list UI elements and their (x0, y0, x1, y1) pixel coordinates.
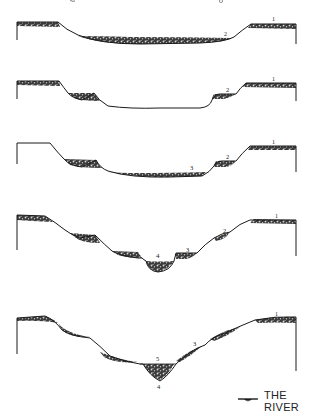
label-2: 2 (226, 328, 229, 335)
label-1: 1 (272, 139, 275, 145)
label-5: 5 (156, 355, 159, 362)
profile-stage-5: 1 2 3 5 4 (17, 311, 296, 390)
label-2: 2 (226, 153, 229, 160)
profile-stage-2: 1 2 (17, 76, 296, 108)
floodplain-deposit-right (243, 83, 296, 88)
legend-label: THE RIVER (264, 389, 325, 413)
channel-fill (143, 364, 174, 380)
terrace-deposit-left-upper (70, 233, 100, 243)
label-4: 4 (156, 252, 160, 260)
label-3: 3 (186, 246, 189, 253)
profile-stage-4: 1 2 3 4 (17, 213, 296, 272)
label-4: 4 (157, 383, 161, 390)
cutoff-caption-fragments (70, 0, 223, 3)
deposit-band-right-mid (210, 327, 240, 341)
river-terrace-diagram: 1 2 1 2 1 2 3 1 2 3 4 (0, 0, 325, 416)
floodplain-deposit-left (17, 22, 60, 27)
deposit-band-right-lower (176, 346, 202, 362)
label-2: 2 (226, 86, 229, 93)
label-3: 3 (190, 164, 193, 171)
label-2: 2 (224, 31, 227, 37)
label-2: 2 (223, 227, 226, 234)
channel-deposit (146, 261, 174, 272)
label-3: 3 (193, 340, 196, 347)
river-symbol-icon (238, 397, 258, 405)
profile-stage-1: 1 2 (17, 16, 296, 44)
label-1: 1 (272, 76, 275, 82)
terrace-deposit-right-lower (175, 253, 197, 259)
label-1: 1 (275, 311, 278, 317)
deposit-band-left-2 (100, 352, 138, 362)
legend: THE RIVER (238, 389, 325, 413)
label-1: 1 (275, 213, 278, 219)
profile-stage-3: 1 2 3 (17, 139, 296, 177)
floodplain-deposit-left (17, 81, 60, 86)
floodplain-deposit-right (248, 24, 296, 29)
label-1: 1 (272, 16, 275, 22)
terrace-deposit-left-lower (112, 251, 142, 258)
floodplain-deposit-right (248, 146, 296, 150)
